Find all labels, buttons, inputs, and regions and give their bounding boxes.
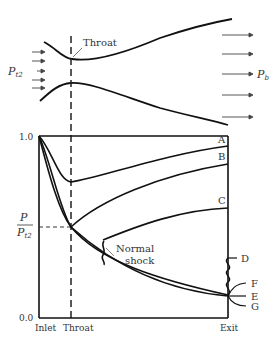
y-tick-bottom: 0.0 <box>19 313 34 323</box>
label-F: F <box>251 278 258 289</box>
x-label-exit: Exit <box>220 323 239 333</box>
inlet-pressure-label: Pt2 <box>7 65 23 79</box>
inlet-flow-arrows <box>32 50 45 90</box>
y-tick-top: 1.0 <box>19 132 34 142</box>
nozzle-pressure-diagram: Throat Pt2 Pb Normal shock A B C D F <box>0 0 280 344</box>
curve-C <box>39 136 228 295</box>
x-label-throat: Throat <box>63 323 94 333</box>
back-pressure-label: Pb <box>256 68 269 82</box>
label-B: B <box>218 151 225 162</box>
label-A: A <box>217 134 226 145</box>
y-label-denominator: Pt2 <box>16 226 32 240</box>
throat-label: Throat <box>83 37 117 48</box>
normal-shock-label-2: shock <box>125 255 155 266</box>
normal-shock-label-1: Normal <box>116 243 154 254</box>
exit-flow-arrows <box>222 33 253 119</box>
nozzle-lower-wall <box>40 83 228 125</box>
pressure-curves <box>39 136 228 296</box>
exit-fan-curves <box>228 283 246 306</box>
curve-C-upper <box>103 208 228 240</box>
nozzle-upper-wall <box>44 19 232 60</box>
curve-A <box>39 136 228 182</box>
label-D: D <box>241 253 249 264</box>
label-G: G <box>251 301 259 312</box>
nozzle-sketch <box>40 19 232 125</box>
y-label-numerator: P <box>19 211 28 224</box>
x-label-inlet: Inlet <box>35 323 57 333</box>
label-C: C <box>218 195 226 206</box>
throat-leader-line <box>73 48 82 57</box>
